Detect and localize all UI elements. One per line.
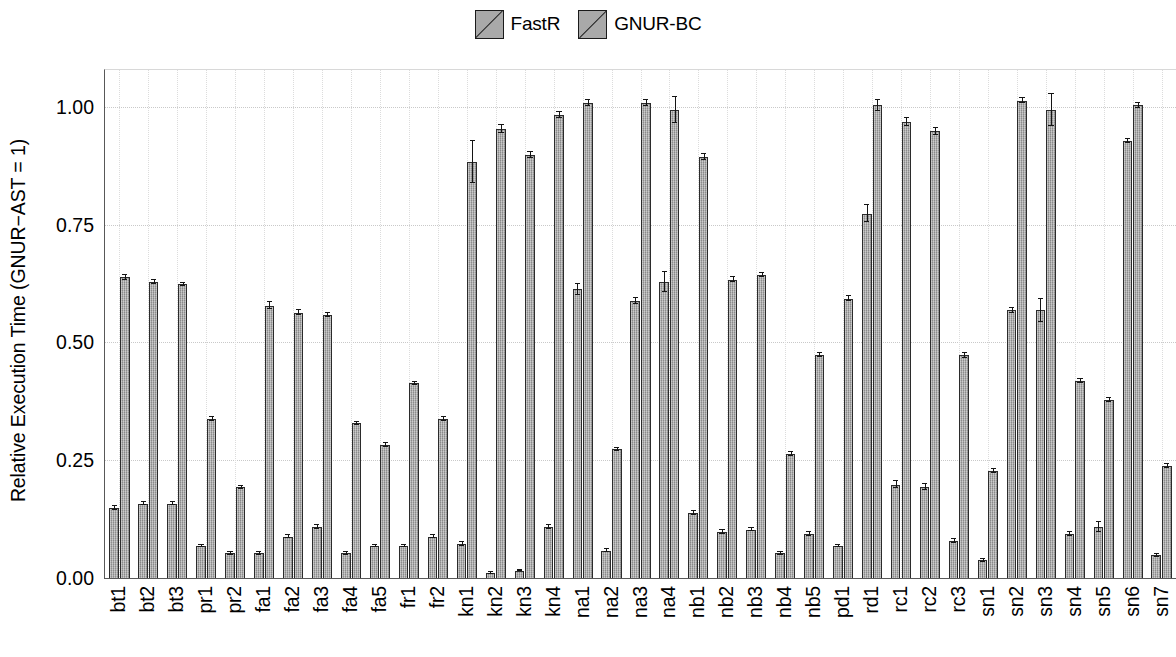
bar <box>728 280 738 579</box>
bar-group <box>626 70 655 579</box>
bar <box>891 485 901 579</box>
error-bar-cap <box>343 554 348 555</box>
error-bar-cap <box>141 501 146 502</box>
x-axis-tick-label-text: nb5 <box>802 586 825 618</box>
error-bar-cap <box>904 125 909 126</box>
bar-series-container <box>105 70 1176 579</box>
y-axis-title: Relative Execution Time (GNUR−AST = 1) <box>4 60 34 580</box>
error-bar-cap <box>835 546 840 547</box>
bar-group <box>713 70 742 579</box>
error-bar-cap <box>922 483 927 484</box>
error-bar-cap <box>730 276 735 277</box>
error-bar-cap <box>604 551 609 552</box>
error-bar-cap <box>122 274 127 275</box>
bar <box>496 129 506 579</box>
bar-group <box>973 70 1002 579</box>
error-bar-cap <box>227 554 232 555</box>
error-bar-cap <box>470 140 475 141</box>
error-bar-cap <box>285 534 290 535</box>
error-bar-cap <box>701 159 706 160</box>
bar-group <box>684 70 713 579</box>
bar <box>283 537 293 579</box>
bar <box>312 527 322 579</box>
error-bar-cap <box>1048 125 1053 126</box>
legend-entry-gnur-bc: GNUR-BC <box>578 10 701 39</box>
y-axis-tick-label: 1.00 <box>56 95 94 118</box>
error-bar-cap <box>1125 138 1130 139</box>
error-bar-cap <box>893 480 898 481</box>
error-bar-cap <box>980 558 985 559</box>
error-bar-cap <box>441 420 446 421</box>
x-axis-tick-label-text: pr2 <box>223 586 246 614</box>
x-axis-tick-label-text: rc2 <box>917 586 940 613</box>
error-bar-cap <box>296 314 301 315</box>
error-bar-cap <box>691 510 696 511</box>
bar <box>612 449 622 579</box>
error-bar-cap <box>614 450 619 451</box>
error-bar-cap <box>401 544 406 545</box>
bar <box>294 313 304 579</box>
bar <box>352 423 362 579</box>
bar-group <box>481 70 510 579</box>
bar <box>949 541 959 579</box>
bar <box>873 105 883 579</box>
bar-group <box>394 70 423 579</box>
bar-group <box>452 70 481 579</box>
bar <box>1094 527 1104 579</box>
bar <box>149 282 159 579</box>
bar-group <box>829 70 858 579</box>
bar <box>699 157 709 579</box>
error-bar-cap <box>314 528 319 529</box>
bar <box>467 162 477 579</box>
bar <box>1123 141 1133 579</box>
bar <box>583 103 593 579</box>
bar <box>959 355 969 579</box>
error-bar-cap <box>691 514 696 515</box>
x-axis-tick-label-text: na4 <box>657 586 680 618</box>
error-bar-cap <box>1067 531 1072 532</box>
error-bar-cap <box>412 384 417 385</box>
error-bar-cap <box>962 352 967 353</box>
x-axis-tick-label-text: nb2 <box>715 586 738 618</box>
bar-group <box>915 70 944 579</box>
error-bar-cap <box>546 528 551 529</box>
error-bar-cap <box>198 544 203 545</box>
error-bar-cap <box>777 554 782 555</box>
x-axis-tick-label-text: sn2 <box>1004 586 1027 617</box>
legend-label-gnur-bc: GNUR-BC <box>614 13 701 35</box>
bar <box>920 487 930 579</box>
error-bar-cap <box>238 485 243 486</box>
bar <box>1036 310 1046 579</box>
bar <box>670 110 680 579</box>
error-bar-cap <box>806 531 811 532</box>
x-axis-tick-label-text: fr2 <box>425 586 448 608</box>
error-bar-cap <box>1067 535 1072 536</box>
x-axis-tick-label-text: nb3 <box>744 586 767 618</box>
bar <box>688 513 698 579</box>
error-bar-cap <box>1019 102 1024 103</box>
x-axis-tick-label-text: kn3 <box>512 586 535 617</box>
error-bar <box>675 97 676 123</box>
error-bar-cap <box>904 117 909 118</box>
error-bar-cap <box>759 276 764 277</box>
error-bar-cap <box>788 451 793 452</box>
bar <box>265 306 275 579</box>
bar <box>544 527 554 579</box>
x-axis-tick-label-text: na2 <box>599 586 622 618</box>
bar-group <box>163 70 192 579</box>
bar-group <box>742 70 771 579</box>
bar-group <box>1002 70 1031 579</box>
error-bar-cap <box>951 538 956 539</box>
error-bar-cap <box>314 524 319 525</box>
error-bar-cap <box>759 272 764 273</box>
x-axis-tick-label-text: bt1 <box>107 586 130 613</box>
error-bar-cap <box>951 542 956 543</box>
error-bar-cap <box>267 308 272 309</box>
x-axis-tick-label-text: kn4 <box>541 586 564 617</box>
error-bar-cap <box>1164 467 1169 468</box>
error-bar-cap <box>459 545 464 546</box>
error-bar-cap <box>962 357 967 358</box>
bar <box>930 131 940 579</box>
bar-group <box>800 70 829 579</box>
bar <box>1104 400 1114 579</box>
